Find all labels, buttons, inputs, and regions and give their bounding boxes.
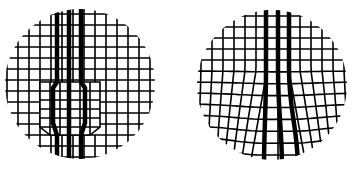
distorted-grid xyxy=(195,0,351,169)
thick-vertical-lines xyxy=(53,0,85,169)
left-grid-panel xyxy=(0,0,170,169)
grid-figure xyxy=(0,0,360,169)
right-grid-panel xyxy=(195,0,351,169)
